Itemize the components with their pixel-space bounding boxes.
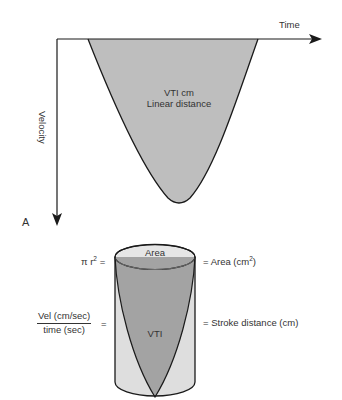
velocity-axis-label: Velocity bbox=[37, 111, 48, 144]
vti-cm-label: VTI cm bbox=[164, 88, 194, 98]
fraction-numerator: Vel (cm/sec) bbox=[37, 311, 91, 324]
time-axis-label: Time bbox=[279, 20, 300, 30]
velocity-time-fraction: Vel (cm/sec) time (sec) bbox=[37, 311, 91, 336]
diagram-canvas bbox=[0, 0, 342, 400]
fraction-denominator: time (sec) bbox=[37, 324, 91, 336]
panel-label-a: A bbox=[22, 217, 29, 228]
pi-r-squared-formula: π r2 = bbox=[81, 256, 105, 267]
stroke-distance-label: = Stroke distance (cm) bbox=[203, 318, 298, 328]
pi-r-text: π r bbox=[81, 256, 93, 267]
fraction-equals: = bbox=[101, 319, 107, 329]
vti-curve-area bbox=[88, 39, 258, 203]
area-cm2-close: ) bbox=[253, 256, 256, 267]
area-label: Area bbox=[145, 248, 165, 258]
pi-r-sup: 2 bbox=[93, 255, 97, 262]
area-cm2-text: = Area (cm bbox=[203, 256, 249, 267]
pi-r-equals: = bbox=[100, 256, 106, 267]
area-cm2-label: = Area (cm2) bbox=[203, 256, 256, 267]
vti-label: VTI bbox=[148, 329, 163, 339]
linear-distance-label: Linear distance bbox=[147, 99, 211, 109]
